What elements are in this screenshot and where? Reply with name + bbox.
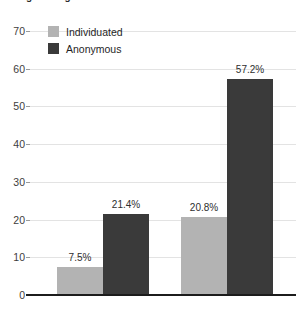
bar-in-groups-individuated[interactable]: [181, 217, 227, 295]
y-axis-tick-mark: [26, 220, 30, 221]
bar-value-label: 21.4%: [112, 199, 140, 210]
legend-label-individuated: Individuated: [66, 26, 123, 38]
legend-item-anonymous: Anonymous: [48, 41, 123, 56]
chart-legend: Individuated Anonymous: [48, 24, 123, 58]
legend-swatch-individuated: [48, 26, 59, 37]
bar-value-label: 57.2%: [236, 64, 264, 75]
y-axis-tick-mark: [26, 144, 30, 145]
bar-chart: Using Testing 0102030405060707.5%21.4%Al…: [0, 0, 298, 322]
y-axis-tick-mark: [26, 257, 30, 258]
legend-label-anonymous: Anonymous: [66, 43, 121, 55]
y-axis-tick-label: 50: [13, 100, 25, 112]
legend-item-individuated: Individuated: [48, 24, 123, 39]
y-axis-tick-label: 40: [13, 138, 25, 150]
x-axis-line: [26, 294, 296, 296]
bar-value-label: 7.5%: [69, 252, 92, 263]
y-axis-tick-mark: [26, 31, 30, 32]
bar-alone-anonymous[interactable]: [103, 214, 149, 295]
chart-title: Using Testing: [4, 0, 71, 2]
plot-area: 0102030405060707.5%21.4%Alone20.8%57.2%I…: [30, 31, 296, 295]
legend-swatch-anonymous: [48, 43, 59, 54]
y-axis-tick-label: 60: [13, 63, 25, 75]
y-axis-tick-mark: [26, 69, 30, 70]
y-axis-tick-label: 30: [13, 176, 25, 188]
bar-in-groups-anonymous[interactable]: [227, 79, 273, 295]
y-axis-tick-label: 0: [19, 289, 25, 301]
y-axis-tick-label: 20: [13, 214, 25, 226]
bar-alone-individuated[interactable]: [57, 267, 103, 295]
bar-value-label: 20.8%: [190, 202, 218, 213]
y-axis-tick-label: 10: [13, 251, 25, 263]
y-axis-tick-mark: [26, 182, 30, 183]
y-axis-tick-mark: [26, 106, 30, 107]
y-axis-tick-label: 70: [13, 25, 25, 37]
